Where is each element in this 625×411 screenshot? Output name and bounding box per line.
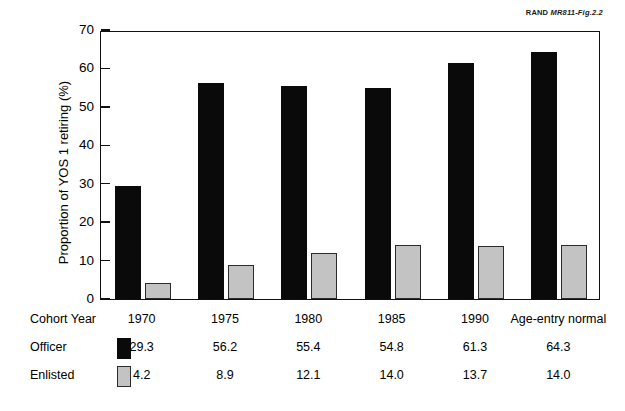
table-cell-officer-4: 61.3 — [463, 340, 487, 354]
y-tick-label: 60 — [79, 59, 94, 77]
bar-enlisted-1985 — [395, 245, 421, 299]
table-cell-enlisted-0: 4.2 — [133, 368, 150, 382]
bar-officer-1975 — [198, 83, 224, 299]
bar-enlisted-1970 — [145, 283, 171, 299]
figure-container: RAND MR811-Fig.2.2 Proportion of YOS 1 r… — [0, 0, 625, 411]
y-tick-label: 50 — [79, 98, 94, 116]
table-cell-enlisted-3: 14.0 — [379, 368, 403, 382]
legend-swatch-enlisted — [117, 366, 131, 387]
y-tick-label: 30 — [79, 175, 94, 193]
table-header-cell-3: 1985 — [378, 312, 406, 326]
table-row: Officer29.356.255.454.861.364.3 — [0, 336, 625, 364]
plot-area: 010203040506070 — [100, 31, 600, 300]
table-cell-officer-0: 29.3 — [129, 340, 153, 354]
source-note: RAND MR811-Fig.2.2 — [526, 8, 603, 17]
table-header-cell-2: 1980 — [294, 312, 322, 326]
source-note-figure-id: MR811-Fig.2.2 — [551, 8, 603, 17]
y-tick-mark — [101, 29, 110, 31]
table-header-row: Cohort Year19701975198019851990Age-entry… — [0, 308, 625, 336]
y-axis-title: Proportion of YOS 1 retiring (%) — [56, 38, 71, 308]
table-cell-enlisted-2: 12.1 — [296, 368, 320, 382]
table-row-label-officer: Officer — [30, 340, 67, 354]
table-header-cell-5: Age-entry normal — [510, 312, 606, 326]
y-tick-label: 40 — [79, 136, 94, 154]
table-cell-officer-5: 64.3 — [546, 340, 570, 354]
bar-officer-1970 — [115, 186, 141, 299]
bar-officer-1980 — [281, 86, 307, 299]
y-tick-label: 20 — [79, 213, 94, 231]
table-header-cell-4: 1990 — [461, 312, 489, 326]
table-cell-officer-2: 55.4 — [296, 340, 320, 354]
bar-officer-1985 — [365, 88, 391, 299]
table-header-cell-0: 1970 — [128, 312, 156, 326]
data-table: Cohort Year19701975198019851990Age-entry… — [0, 308, 625, 392]
bar-enlisted-1990 — [478, 246, 504, 299]
table-cell-enlisted-5: 14.0 — [546, 368, 570, 382]
table-cell-enlisted-4: 13.7 — [463, 368, 487, 382]
table-cell-officer-1: 56.2 — [213, 340, 237, 354]
table-cell-enlisted-1: 8.9 — [216, 368, 233, 382]
table-row-label-enlisted: Enlisted — [30, 368, 74, 382]
y-tick-label: 10 — [79, 252, 94, 270]
bar-officer-1990 — [448, 63, 474, 299]
bar-enlisted-age-entry-normal — [561, 245, 587, 299]
bar-officer-age-entry-normal — [531, 52, 557, 299]
bar-enlisted-1980 — [311, 253, 337, 299]
y-tick-label: 0 — [86, 290, 94, 308]
source-note-prefix: RAND — [526, 8, 551, 17]
table-cell-officer-3: 54.8 — [379, 340, 403, 354]
table-header-cell-1: 1975 — [211, 312, 239, 326]
bar-enlisted-1975 — [228, 265, 254, 299]
bars-layer — [101, 32, 599, 299]
table-row: Enlisted4.28.912.114.013.714.0 — [0, 364, 625, 392]
y-tick-label: 70 — [79, 21, 94, 39]
table-header-label: Cohort Year — [30, 312, 96, 326]
